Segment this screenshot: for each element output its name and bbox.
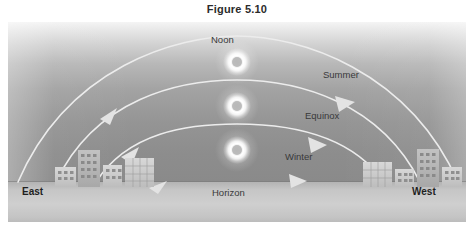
label-horizon: Horizon [212, 187, 245, 198]
building-west-4 [442, 167, 462, 187]
building-west-1 [363, 162, 392, 187]
label-west: West [412, 186, 436, 198]
building-east-3 [103, 165, 122, 187]
sun-winter [215, 128, 259, 172]
label-winter: Winter [285, 151, 312, 162]
sun-path-illustration: Noon Summer Equinox Winter Horizon East … [8, 22, 466, 222]
sun-equinox [215, 84, 259, 128]
label-east: East [22, 186, 43, 198]
building-east-2 [78, 150, 100, 187]
figure-caption: Figure 5.10 [0, 2, 474, 16]
building-west-2 [395, 169, 414, 187]
winter-arrow-west [289, 174, 307, 188]
label-summer: Summer [323, 69, 359, 80]
figure-container: Figure 5.10 [0, 0, 474, 228]
label-noon: Noon [211, 34, 234, 45]
label-equinox: Equinox [305, 110, 339, 121]
sun-markers [215, 40, 259, 172]
building-west-3 [417, 149, 439, 187]
building-east-4 [125, 158, 154, 187]
building-east-1 [55, 167, 76, 187]
sun-summer [215, 40, 259, 84]
east-skyline [55, 150, 154, 187]
